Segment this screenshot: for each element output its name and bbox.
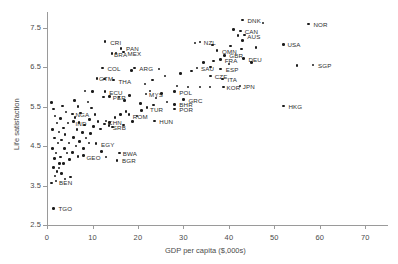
data-point bbox=[59, 117, 62, 120]
point-label: POL bbox=[179, 89, 192, 96]
data-point bbox=[84, 90, 87, 93]
data-point bbox=[100, 150, 103, 153]
data-point bbox=[282, 43, 285, 46]
data-point bbox=[111, 52, 114, 55]
data-point bbox=[219, 68, 222, 71]
point-label: SAU bbox=[201, 65, 214, 72]
data-point bbox=[164, 75, 167, 78]
data-point bbox=[68, 142, 71, 145]
data-point bbox=[179, 72, 182, 75]
point-label: DNK bbox=[248, 17, 262, 24]
point-label: ARG bbox=[139, 65, 153, 72]
data-point bbox=[60, 139, 63, 142]
point-label: SGP bbox=[318, 62, 332, 69]
data-point bbox=[78, 121, 81, 124]
data-point bbox=[55, 152, 58, 155]
data-point bbox=[54, 175, 57, 178]
data-point bbox=[239, 30, 242, 33]
x-tick-label: 50 bbox=[265, 233, 283, 242]
data-point bbox=[250, 61, 253, 64]
x-tick-mark bbox=[274, 225, 275, 229]
data-point bbox=[52, 166, 55, 169]
data-point bbox=[146, 106, 149, 109]
data-point bbox=[216, 49, 219, 52]
data-point bbox=[58, 167, 61, 170]
data-point bbox=[120, 47, 123, 50]
data-point bbox=[296, 64, 299, 67]
data-point bbox=[118, 152, 121, 155]
x-tick-mark bbox=[183, 225, 184, 229]
data-point bbox=[91, 90, 94, 93]
y-tick-label: 3.5 bbox=[24, 181, 41, 190]
x-tick-label: 0 bbox=[38, 233, 56, 242]
data-point bbox=[50, 182, 53, 185]
data-point bbox=[166, 101, 169, 104]
data-point bbox=[103, 123, 106, 126]
point-label: GTM bbox=[99, 75, 113, 82]
data-point bbox=[133, 67, 136, 70]
data-point bbox=[144, 83, 147, 86]
point-label: NOR bbox=[313, 21, 327, 28]
y-tick-label: 7.5 bbox=[24, 23, 41, 32]
data-point bbox=[255, 46, 258, 49]
point-label: BGR bbox=[122, 157, 136, 164]
data-point bbox=[122, 124, 125, 127]
data-point bbox=[108, 95, 111, 98]
data-point bbox=[67, 122, 70, 125]
data-point bbox=[232, 28, 235, 31]
data-point bbox=[56, 122, 59, 125]
data-point bbox=[56, 170, 59, 173]
data-point bbox=[211, 44, 214, 47]
data-point bbox=[87, 101, 90, 104]
data-point bbox=[89, 132, 92, 135]
data-point bbox=[65, 111, 68, 114]
data-point bbox=[53, 137, 56, 140]
data-point bbox=[77, 155, 80, 158]
point-label: AUS bbox=[247, 33, 260, 40]
data-point bbox=[96, 77, 99, 80]
data-point bbox=[123, 99, 126, 102]
data-point bbox=[58, 162, 61, 165]
data-point bbox=[71, 113, 74, 116]
point-label: THA bbox=[118, 78, 131, 85]
data-point bbox=[51, 147, 54, 150]
data-point bbox=[105, 120, 108, 123]
data-point bbox=[101, 67, 104, 70]
point-label: HUN bbox=[159, 118, 173, 125]
x-tick-label: 70 bbox=[356, 233, 374, 242]
data-point bbox=[88, 142, 91, 145]
data-point bbox=[58, 131, 61, 134]
data-point bbox=[104, 40, 107, 43]
data-point bbox=[50, 101, 53, 104]
data-point bbox=[128, 113, 131, 116]
point-label: FRA bbox=[225, 57, 238, 64]
data-point bbox=[54, 115, 57, 118]
x-tick-label: 10 bbox=[84, 233, 102, 242]
data-point bbox=[66, 152, 69, 155]
point-label: TGO bbox=[58, 205, 72, 212]
data-point bbox=[222, 86, 225, 89]
data-point bbox=[55, 180, 58, 183]
point-label: COL bbox=[108, 65, 121, 72]
data-point bbox=[241, 19, 244, 22]
data-point bbox=[241, 39, 244, 42]
data-point bbox=[59, 156, 62, 159]
data-point bbox=[69, 176, 72, 179]
data-point bbox=[97, 120, 100, 123]
point-label: ITA bbox=[228, 76, 238, 83]
point-label: GEO bbox=[86, 154, 100, 161]
data-point bbox=[199, 41, 202, 44]
point-label: ESP bbox=[226, 66, 239, 73]
y-axis-line bbox=[47, 12, 48, 225]
point-label: BWA bbox=[123, 150, 137, 157]
data-point bbox=[68, 158, 71, 161]
data-point bbox=[307, 23, 310, 26]
data-point bbox=[223, 54, 226, 57]
x-axis-line bbox=[47, 225, 388, 226]
data-point bbox=[139, 102, 142, 105]
data-point bbox=[212, 60, 215, 63]
data-point bbox=[119, 113, 122, 116]
data-point bbox=[76, 128, 79, 131]
y-tick-label: 6.5 bbox=[24, 62, 41, 71]
y-tick-mark bbox=[43, 107, 47, 108]
